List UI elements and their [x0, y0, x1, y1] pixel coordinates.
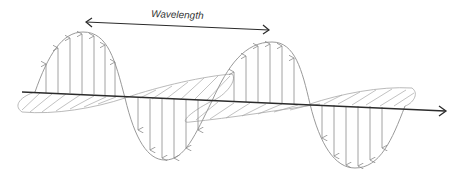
wavelength-label: Wavelength: [151, 8, 204, 21]
magnetic-field-wave: [18, 74, 415, 122]
electric-field-wave: [35, 32, 405, 168]
wavelength-arrow: [86, 18, 269, 34]
em-wave-diagram: [0, 0, 466, 185]
